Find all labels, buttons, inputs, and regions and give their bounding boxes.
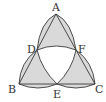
label-B: B: [8, 83, 16, 96]
shaded-region-right: [57, 50, 95, 88]
label-C: C: [95, 83, 103, 96]
label-D: D: [27, 43, 36, 56]
label-A: A: [51, 1, 61, 14]
label-E: E: [53, 88, 61, 101]
geometry-diagram: A D F B E C: [0, 0, 106, 102]
label-F: F: [78, 43, 86, 56]
shaded-region-left: [19, 50, 57, 88]
shaded-region-top: [37, 14, 76, 50]
